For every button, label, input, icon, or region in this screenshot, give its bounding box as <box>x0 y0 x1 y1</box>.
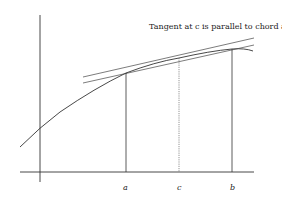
tangent-line <box>83 38 254 77</box>
mean-value-theorem-diagram: Tangent at c is parallel to chord a, b a… <box>0 0 282 198</box>
label-a: a <box>123 183 128 192</box>
label-c: c <box>177 183 182 192</box>
label-b: b <box>230 183 235 192</box>
chord-line <box>83 45 254 83</box>
title: Tangent at c is parallel to chord a, b <box>149 22 282 31</box>
function-curve <box>20 49 253 147</box>
